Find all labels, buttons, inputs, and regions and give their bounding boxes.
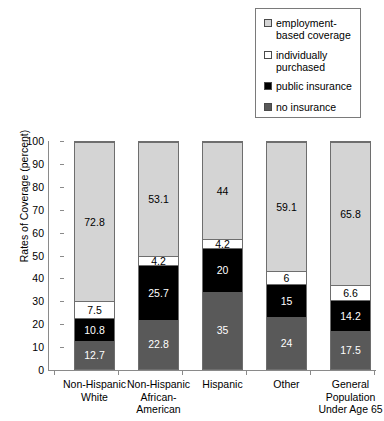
- y-tick-label: 0: [18, 365, 44, 375]
- bar-segment-value: 4.2: [215, 239, 230, 248]
- stacked-bar-chart: employment- based coverage individually …: [0, 0, 384, 421]
- bar-2: 35204.244: [202, 141, 243, 370]
- bar-0: 12.710.87.572.8: [74, 141, 115, 370]
- x-tick-mark: [246, 370, 247, 375]
- bar-segment-value: 17.5: [340, 345, 360, 356]
- x-axis-label-4: General Population Under Age 65: [303, 378, 384, 416]
- y-tick-label: 80: [18, 182, 44, 192]
- bar-segment-individually-purchased: 6: [267, 271, 306, 284]
- bar-3: 2415659.1: [266, 141, 307, 370]
- bar-segment-public-insurance: 14.2: [331, 300, 370, 331]
- bar-segment-individually-purchased: 6.6: [331, 285, 370, 299]
- y-tick-label: 40: [18, 273, 44, 283]
- bar-segment-public-insurance: 25.7: [139, 265, 178, 320]
- y-tick-label: 100: [18, 136, 44, 146]
- legend-swatch-no-insurance: [264, 103, 272, 111]
- bar-segment-no-insurance: 17.5: [331, 331, 370, 369]
- x-tick-mark: [118, 370, 119, 375]
- bar-segment-value: 6.6: [343, 288, 358, 299]
- bar-segment-employment-based-coverage: 59.1: [267, 142, 306, 271]
- bar-segment-value: 24: [281, 338, 293, 349]
- bar-segment-employment-based-coverage: 65.8: [331, 142, 370, 285]
- legend-item-individually-purchased: individually purchased: [264, 50, 356, 73]
- bar-segment-value: 53.1: [148, 194, 168, 205]
- bar-segment-value: 15: [281, 296, 293, 307]
- bar-segment-value: 65.8: [340, 209, 360, 220]
- bar-segment-no-insurance: 12.7: [75, 341, 114, 369]
- bar-segment-value: 35: [217, 325, 229, 336]
- bar-segment-public-insurance: 15: [267, 284, 306, 317]
- x-tick-mark: [182, 370, 183, 375]
- legend-label-public-insurance: public insurance: [276, 81, 352, 93]
- legend-swatch-individually-purchased: [264, 51, 272, 59]
- bar-segment-value: 72.8: [84, 217, 104, 228]
- y-tick-label: 10: [18, 342, 44, 352]
- bar-segment-value: 22.8: [148, 339, 168, 350]
- legend-item-employment-based-coverage: employment- based coverage: [264, 18, 356, 41]
- bar-segment-employment-based-coverage: 72.8: [75, 142, 114, 301]
- bar-segment-public-insurance: 10.8: [75, 318, 114, 342]
- bar-segment-value: 10.8: [84, 325, 104, 336]
- bar-segment-no-insurance: 22.8: [139, 320, 178, 369]
- bar-segment-no-insurance: 24: [267, 317, 306, 369]
- legend-item-public-insurance: public insurance: [264, 81, 356, 93]
- y-tick-label: 50: [18, 251, 44, 261]
- x-tick-mark: [310, 370, 311, 375]
- bar-segment-value: 25.7: [148, 288, 168, 299]
- x-axis-line: [48, 370, 376, 371]
- bar-segment-employment-based-coverage: 44: [203, 142, 242, 239]
- bar-segment-value: 4.2: [151, 256, 166, 265]
- legend-swatch-public-insurance: [264, 82, 272, 90]
- x-tick-mark: [54, 370, 55, 375]
- bar-segment-no-insurance: 35: [203, 292, 242, 369]
- y-tick-label: 90: [18, 159, 44, 169]
- legend-swatch-employment-based-coverage: [264, 19, 272, 27]
- bar-segment-individually-purchased: 4.2: [203, 239, 242, 248]
- x-tick-mark: [374, 370, 375, 375]
- bar-segment-public-insurance: 20: [203, 248, 242, 292]
- bar-segment-value: 6: [284, 273, 290, 284]
- bar-segment-value: 20: [217, 265, 229, 276]
- bar-segment-individually-purchased: 4.2: [139, 256, 178, 265]
- legend-label-individually-purchased: individually purchased: [276, 50, 327, 73]
- bar-4: 17.514.26.665.8: [330, 141, 371, 370]
- y-tick-label: 70: [18, 205, 44, 215]
- bar-segment-individually-purchased: 7.5: [75, 301, 114, 317]
- y-tick-label: 20: [18, 319, 44, 329]
- bar-segment-employment-based-coverage: 53.1: [139, 142, 178, 256]
- y-axis-ticks: 1009080706050403020100: [16, 141, 44, 370]
- bar-segment-value: 7.5: [87, 305, 102, 316]
- plot-area: 12.710.87.572.822.825.74.253.135204.2442…: [48, 141, 376, 370]
- bar-segment-value: 44: [217, 186, 229, 197]
- legend-item-no-insurance: no insurance: [264, 102, 356, 114]
- y-tick-label: 30: [18, 296, 44, 306]
- bar-segment-value: 59.1: [276, 202, 296, 213]
- bar-segment-value: 12.7: [84, 350, 104, 361]
- legend-label-employment-based-coverage: employment- based coverage: [276, 18, 351, 41]
- bar-1: 22.825.74.253.1: [138, 141, 179, 370]
- legend-label-no-insurance: no insurance: [276, 102, 336, 114]
- chart-legend: employment- based coverage individually …: [255, 8, 361, 118]
- y-tick-label: 60: [18, 228, 44, 238]
- bar-segment-value: 14.2: [340, 311, 360, 322]
